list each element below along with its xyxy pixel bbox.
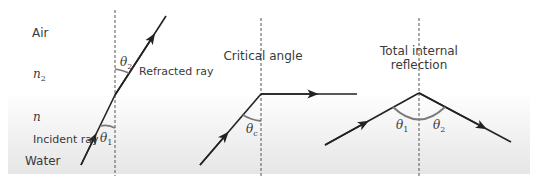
- n-label: n: [33, 111, 41, 123]
- critical-angle-diagram: [200, 18, 357, 176]
- tir-diagram: [325, 18, 511, 176]
- critical-angle-title: Critical angle: [223, 50, 302, 62]
- optics-diagram: [0, 0, 536, 184]
- refraction-diagram: [81, 10, 166, 176]
- tir-theta2-label: θ2: [433, 119, 445, 134]
- tir-title-line2: reflection: [380, 58, 458, 72]
- theta2-label: θ2: [120, 56, 132, 71]
- tir-theta1-label: θ1: [396, 119, 408, 134]
- tir-title: Total internal reflection: [380, 44, 458, 73]
- n2-label: n2: [33, 68, 46, 83]
- incident-ray-label: Incident ray: [33, 134, 99, 145]
- air-label: Air: [32, 27, 48, 39]
- water-label: Water: [25, 155, 60, 167]
- tir-title-line1: Total internal: [380, 44, 458, 58]
- thetac-label: θc: [246, 123, 258, 138]
- theta1-arc: [101, 125, 116, 128]
- refracted-ray-label: Refracted ray: [139, 66, 213, 77]
- thetac-arc: [243, 115, 261, 121]
- theta1-label: θ1: [100, 132, 112, 147]
